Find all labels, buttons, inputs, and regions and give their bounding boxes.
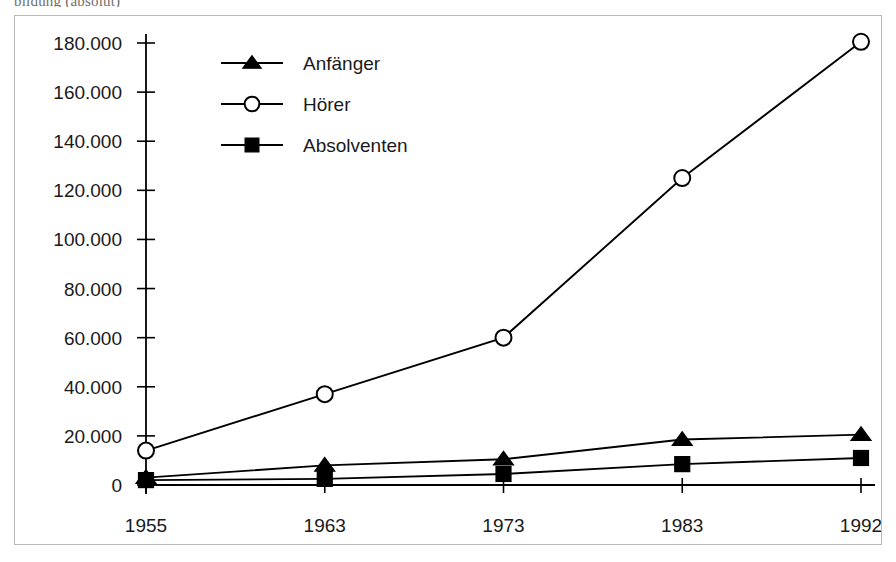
y-axis-tick-label: 180.000 [53, 33, 122, 54]
data-point-marker-circle [674, 170, 690, 186]
data-point-marker-triangle [243, 56, 261, 69]
x-axis-tick-label: 1973 [482, 515, 524, 536]
x-axis-tick-label: 1992 [840, 515, 881, 536]
caption-fragment: bildung (absolut) [14, 0, 120, 7]
legend-item-hörer: Hörer [221, 94, 351, 115]
legend-item-label: Anfänger [303, 53, 381, 74]
y-axis-tick-label: 20.000 [64, 426, 122, 447]
data-point-marker-circle [245, 97, 260, 112]
x-axis-tick-labels: 19551963197319831992 [125, 515, 881, 536]
y-axis-tick-labels: 020.00040.00060.00080.000100.000120.0001… [53, 33, 122, 496]
y-axis-tick-label: 120.000 [53, 180, 122, 201]
data-point-marker-triangle [851, 427, 871, 441]
legend-item-anfänger: Anfänger [221, 53, 381, 74]
y-axis-tick-label: 0 [111, 475, 122, 496]
data-point-marker-circle [317, 386, 333, 402]
legend-item-label: Hörer [303, 94, 351, 115]
x-axis-tick-label: 1983 [661, 515, 703, 536]
y-axis-tick-label: 80.000 [64, 279, 122, 300]
y-axis-tick-label: 160.000 [53, 82, 122, 103]
y-axis-tick-label: 100.000 [53, 229, 122, 250]
data-point-marker-circle [496, 330, 512, 346]
y-axis-tick-label: 140.000 [53, 131, 122, 152]
data-point-marker-square [675, 457, 690, 472]
line-chart-plot: 020.00040.00060.00080.000100.000120.0001… [15, 16, 881, 544]
data-point-marker-square [245, 138, 259, 152]
x-axis-tick-label: 1955 [125, 515, 167, 536]
data-point-marker-square [496, 466, 511, 481]
data-point-marker-circle [853, 34, 869, 50]
data-point-marker-circle [138, 443, 154, 459]
legend-item-absolventen: Absolventen [221, 135, 408, 156]
x-axis-tick-label: 1963 [304, 515, 346, 536]
data-point-marker-square [139, 473, 154, 488]
data-point-marker-square [854, 450, 869, 465]
chart-legend: AnfängerHörerAbsolventen [221, 53, 408, 156]
y-axis-tick-label: 60.000 [64, 328, 122, 349]
legend-item-label: Absolventen [303, 135, 408, 156]
y-axis-tick-label: 40.000 [64, 377, 122, 398]
chart-frame: 020.00040.00060.00080.000100.000120.0001… [14, 15, 882, 545]
data-point-marker-square [317, 471, 332, 486]
